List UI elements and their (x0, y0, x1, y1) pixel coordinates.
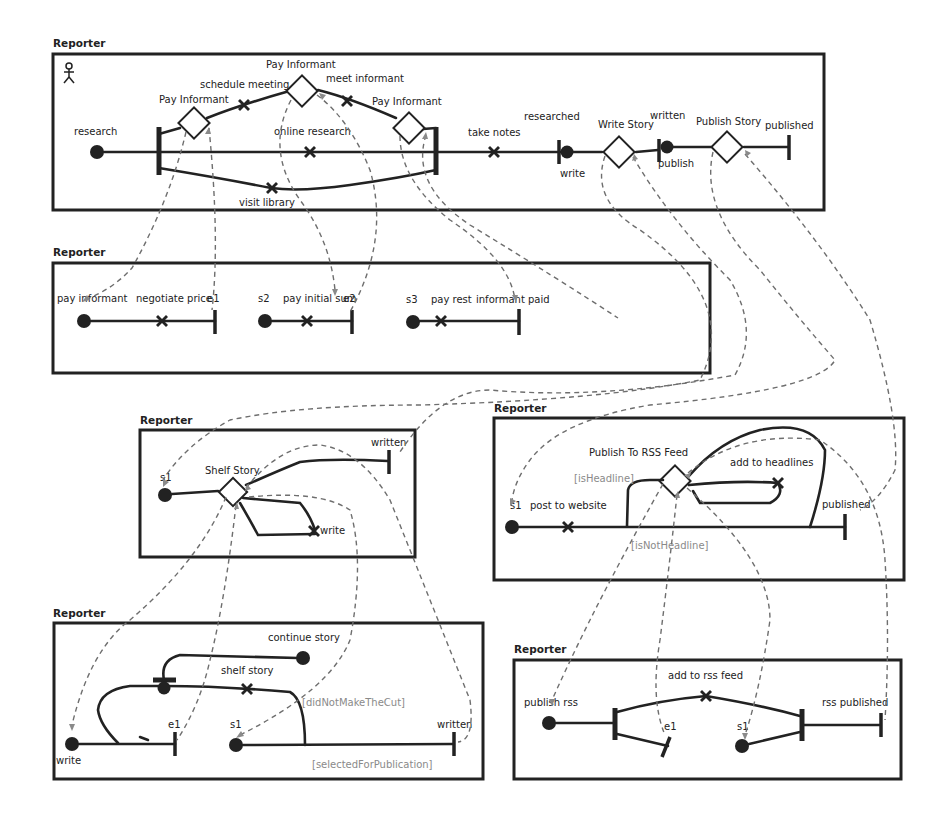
start-point[interactable] (90, 145, 104, 159)
stick-figure-icon (64, 63, 74, 83)
start-point-s1[interactable] (158, 488, 172, 502)
label-rss-published: rss published (822, 697, 888, 708)
start-point-pay-informant[interactable] (77, 314, 91, 328)
start-point-publish[interactable] (661, 141, 674, 154)
label-s2: s2 (258, 293, 270, 304)
panel-title: Reporter (514, 643, 567, 655)
label-negotiate-price: negotiate price (136, 293, 212, 304)
panel-title: Reporter (53, 246, 106, 258)
label-research: research (74, 126, 117, 137)
label-pay-informant-right: Pay Informant (372, 96, 442, 107)
start-point-s1[interactable] (505, 520, 519, 534)
label-written: written (437, 719, 472, 730)
label-e2: e2 (343, 293, 356, 304)
label-write-story: Write Story (598, 119, 654, 130)
stub-pay-informant-top[interactable] (286, 75, 317, 106)
label-shelf-story: Shelf Story (205, 465, 260, 476)
binding-out (423, 135, 618, 318)
label-post-to-website: post to website (530, 500, 607, 511)
stub-pay-informant-left[interactable] (178, 107, 209, 138)
label-researched: researched (524, 111, 580, 122)
guard-selected-for-publication: [selectedForPublication] (312, 759, 433, 770)
label-pay-informant: pay informant (57, 293, 127, 304)
panel-rss: Reporter add to rss feed publish rss rss… (514, 643, 901, 779)
label-publish-to-rss-feed: Publish To RSS Feed (589, 447, 688, 458)
panel-shelf-story: Reporter s1 Shelf Story written write (140, 414, 415, 557)
binding-out (209, 128, 215, 310)
panel-pay-informant: Reporter pay informant negotiate price e… (53, 246, 710, 373)
label-published: published (822, 499, 871, 510)
stub-publish-to-rss-feed[interactable] (659, 465, 690, 496)
binding-in (687, 488, 770, 735)
panel-frame[interactable] (53, 263, 710, 373)
label-s3: s3 (406, 294, 418, 305)
label-take-notes: take notes (468, 127, 521, 138)
panel-publish-rss: Reporter s1 post to website Publish To R… (494, 402, 904, 580)
label-e1: e1 (664, 721, 677, 732)
label-s1: s1 (230, 719, 242, 730)
ucm-diagram-canvas: Reporter (0, 0, 951, 821)
guard-is-not-headline: [isNotHeadline] (631, 540, 709, 551)
panel-title: Reporter (53, 607, 106, 619)
stub-pay-informant-right[interactable] (393, 112, 424, 143)
panel-title: Reporter (140, 414, 193, 426)
label-write: write (56, 755, 81, 766)
label-e1: e1 (168, 719, 181, 730)
waiting-place[interactable] (158, 682, 171, 695)
binding-in (400, 136, 515, 300)
label-online-research: online research (274, 126, 351, 137)
label-add-to-headlines: add to headlines (730, 457, 813, 468)
panel-frame[interactable] (54, 623, 483, 779)
label-publish-story: Publish Story (696, 116, 761, 127)
label-meet-informant: meet informant (326, 73, 404, 84)
stub-write-story[interactable] (603, 136, 634, 167)
start-point-write[interactable] (65, 737, 79, 751)
label-written: written (650, 110, 685, 121)
stub-shelf-story[interactable] (219, 478, 247, 506)
label-pay-informant-top: Pay Informant (266, 59, 336, 70)
start-point-continue-story[interactable] (296, 651, 310, 665)
label-publish: publish (658, 158, 694, 169)
start-point-s1[interactable] (229, 738, 243, 752)
label-schedule-meeting: schedule meeting (200, 79, 289, 90)
start-point-publish-rss[interactable] (542, 716, 556, 730)
label-shelf-story: shelf story (221, 665, 274, 676)
start-point-write[interactable] (561, 146, 574, 159)
label-published: published (765, 120, 814, 131)
start-point-s2[interactable] (258, 314, 272, 328)
panel-root: Reporter (53, 37, 824, 210)
start-point-s1[interactable] (735, 739, 749, 753)
start-point-s3[interactable] (406, 315, 420, 329)
label-add-to-rss-feed: add to rss feed (668, 670, 743, 681)
panel-write-story: Reporter continue story shelf story [did… (53, 607, 483, 779)
label-visit-library: visit library (239, 197, 295, 208)
label-write: write (560, 168, 585, 179)
panel-title: Reporter (53, 37, 106, 49)
label-pay-informant-left: Pay Informant (159, 94, 229, 105)
binding-in (552, 484, 663, 700)
binding-out (398, 157, 746, 455)
label-pay-rest: pay rest (431, 294, 472, 305)
panel-title: Reporter (494, 402, 547, 414)
guard-is-headline: [isHeadline] (574, 473, 634, 484)
label-written: written (371, 437, 406, 448)
stub-publish-story[interactable] (711, 131, 742, 162)
label-write: write (320, 525, 345, 536)
guard-did-not-make-the-cut: [didNotMakeTheCut] (302, 697, 405, 708)
label-continue-story: continue story (268, 632, 340, 643)
